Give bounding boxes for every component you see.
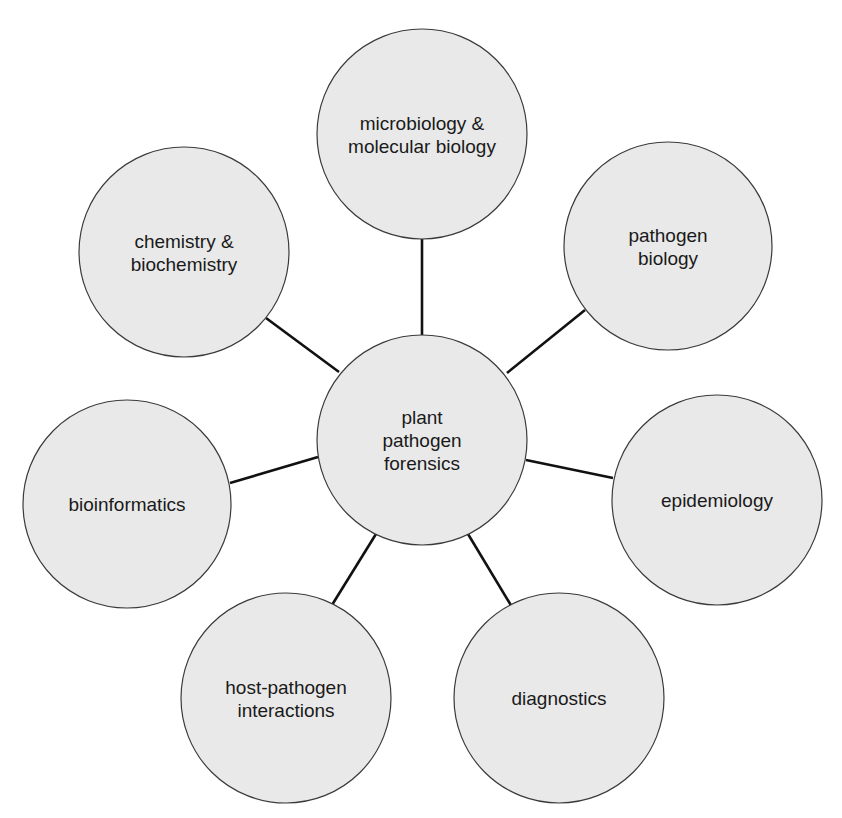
node-microbiology-label: microbiology &: [360, 113, 485, 134]
node-host-pathogen-circle: [181, 593, 391, 803]
connector-epidemiology: [526, 460, 613, 478]
node-bioinformatics-label: bioinformatics: [68, 494, 185, 515]
node-pathogen-biology-label: pathogen: [628, 225, 707, 246]
connector-chemistry: [266, 318, 339, 372]
node-microbiology-circle: [317, 29, 527, 239]
node-pathogen-biology-circle: [564, 142, 772, 350]
node-center-plant-pathogen-forensics: plantpathogenforensics: [317, 335, 527, 545]
node-pathogen-biology: pathogenbiology: [564, 142, 772, 350]
node-host-pathogen-label: host-pathogen: [225, 677, 347, 698]
node-chemistry: chemistry &biochemistry: [79, 147, 289, 357]
node-microbiology: microbiology &molecular biology: [317, 29, 527, 239]
node-pathogen-biology-label: biology: [638, 248, 699, 269]
node-center-plant-pathogen-forensics-label: pathogen: [382, 430, 461, 451]
node-chemistry-circle: [79, 147, 289, 357]
node-diagnostics: diagnostics: [454, 593, 664, 803]
diagram-nodes: microbiology &molecular biologypathogenb…: [23, 29, 822, 803]
connector-pathogen-biology: [507, 310, 585, 373]
concept-diagram: microbiology &molecular biologypathogenb…: [0, 0, 842, 818]
connector-diagnostics: [468, 534, 512, 607]
connector-bioinformatics: [230, 457, 318, 483]
node-epidemiology: epidemiology: [612, 395, 822, 605]
node-chemistry-label: chemistry &: [134, 231, 234, 252]
node-host-pathogen-label: interactions: [237, 700, 334, 721]
node-center-plant-pathogen-forensics-label: plant: [401, 407, 443, 428]
node-chemistry-label: biochemistry: [131, 254, 238, 275]
connector-host-pathogen: [332, 534, 376, 605]
node-epidemiology-label: epidemiology: [661, 490, 773, 511]
node-diagnostics-label: diagnostics: [511, 688, 606, 709]
node-center-plant-pathogen-forensics-label: forensics: [384, 453, 460, 474]
node-host-pathogen: host-pathogeninteractions: [181, 593, 391, 803]
node-bioinformatics: bioinformatics: [23, 400, 231, 608]
node-microbiology-label: molecular biology: [348, 136, 496, 157]
